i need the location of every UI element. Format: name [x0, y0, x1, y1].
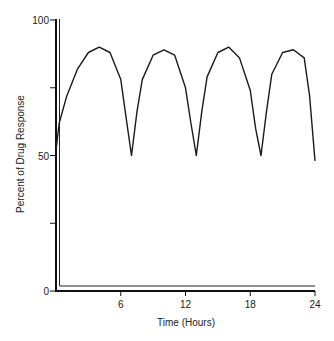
y-tick-label: 50	[38, 151, 50, 162]
drug-response-curve	[56, 47, 315, 161]
y-tick-label: 100	[32, 15, 49, 26]
x-tick-label: 12	[180, 299, 192, 310]
x-tick-label: 6	[118, 299, 124, 310]
x-ticks: 6121824	[118, 291, 321, 310]
y-axis-label: Percent of Drug Response	[15, 95, 26, 213]
y-tick-label: 0	[43, 286, 49, 297]
y-ticks: 050100	[32, 15, 56, 297]
x-axis-label: Time (Hours)	[157, 317, 215, 328]
drug-response-chart: 050100 6121824 Time (Hours) Percent of D…	[0, 0, 334, 341]
x-tick-label: 24	[309, 299, 321, 310]
x-tick-label: 18	[245, 299, 257, 310]
